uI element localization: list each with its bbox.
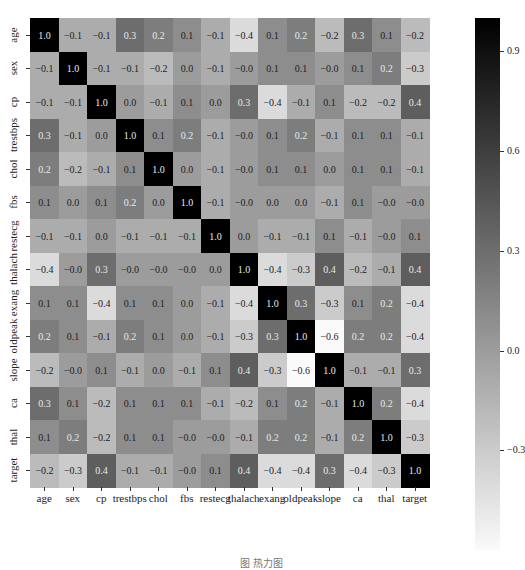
heatmap-cell-thal-thalach: −0.1 bbox=[230, 420, 259, 454]
y-tick bbox=[26, 135, 30, 136]
heatmap-cell-thal-fbs: −0.0 bbox=[173, 420, 202, 454]
y-tick bbox=[26, 68, 30, 69]
y-label-text: sex bbox=[7, 61, 19, 76]
y-label-oldpeak: oldpeak bbox=[0, 320, 26, 354]
x-tick bbox=[158, 487, 159, 491]
heatmap-cell-oldpeak-trestbps: 0.2 bbox=[116, 320, 145, 354]
x-tick bbox=[73, 487, 74, 491]
y-label-restecg: restecg bbox=[0, 219, 26, 253]
heatmap-cell-slope-exang: −0.3 bbox=[258, 353, 287, 387]
heatmap-cell-slope-slope: 1.0 bbox=[315, 353, 344, 387]
heatmap-cell-exang-exang: 1.0 bbox=[258, 286, 287, 320]
heatmap-cell-thalach-exang: −0.4 bbox=[258, 253, 287, 287]
y-label-thal: thal bbox=[0, 420, 26, 454]
y-label-text: ca bbox=[7, 398, 19, 408]
colorbar-tick bbox=[500, 450, 504, 451]
heatmap-cell-sex-chol: −0.2 bbox=[144, 52, 173, 86]
x-tick bbox=[272, 487, 273, 491]
y-tick bbox=[26, 102, 30, 103]
heatmap-cell-thal-slope: −0.1 bbox=[315, 420, 344, 454]
heatmap-cell-sex-thal: 0.2 bbox=[372, 52, 401, 86]
y-tick bbox=[26, 303, 30, 304]
heatmap-cell-trestbps-thalach: −0.0 bbox=[230, 119, 259, 153]
heatmap-cell-chol-fbs: 0.0 bbox=[173, 152, 202, 186]
heatmap-cell-thalach-fbs: −0.0 bbox=[173, 253, 202, 287]
colorbar-tick-label: 0.9 bbox=[507, 45, 520, 56]
heatmap-cell-thalach-oldpeak: −0.3 bbox=[287, 253, 316, 287]
heatmap-cell-thalach-chol: −0.0 bbox=[144, 253, 173, 287]
heatmap-cell-trestbps-restecg: −0.1 bbox=[201, 119, 230, 153]
heatmap-cell-chol-restecg: −0.1 bbox=[201, 152, 230, 186]
heatmap-cell-thal-exang: 0.2 bbox=[258, 420, 287, 454]
heatmap-cell-ca-ca: 1.0 bbox=[344, 387, 373, 421]
heatmap-cell-chol-cp: −0.1 bbox=[87, 152, 116, 186]
heatmap-cell-slope-trestbps: −0.1 bbox=[116, 353, 145, 387]
heatmap-cell-sex-thalach: −0.0 bbox=[230, 52, 259, 86]
heatmap-cell-age-target: −0.2 bbox=[401, 18, 430, 52]
heatmap-cell-trestbps-chol: 0.1 bbox=[144, 119, 173, 153]
heatmap-cell-trestbps-exang: 0.1 bbox=[258, 119, 287, 153]
y-label-slope: slope bbox=[0, 353, 26, 387]
heatmap-cell-thal-chol: 0.1 bbox=[144, 420, 173, 454]
heatmap-cell-thalach-trestbps: −0.0 bbox=[116, 253, 145, 287]
heatmap-cell-cp-trestbps: 0.0 bbox=[116, 85, 145, 119]
heatmap-cell-target-sex: −0.3 bbox=[59, 454, 88, 488]
heatmap-cell-fbs-slope: −0.1 bbox=[315, 186, 344, 220]
heatmap-cell-target-slope: 0.3 bbox=[315, 454, 344, 488]
heatmap-cell-ca-trestbps: 0.1 bbox=[116, 387, 145, 421]
heatmap-cell-sex-trestbps: −0.1 bbox=[116, 52, 145, 86]
x-tick bbox=[130, 487, 131, 491]
y-tick bbox=[26, 236, 30, 237]
y-label-text: age bbox=[7, 27, 19, 42]
heatmap-cell-cp-cp: 1.0 bbox=[87, 85, 116, 119]
heatmap-cell-restecg-thal: −0.0 bbox=[372, 219, 401, 253]
colorbar-tick-label: 0.0 bbox=[507, 345, 520, 356]
heatmap-cell-restecg-trestbps: −0.1 bbox=[116, 219, 145, 253]
heatmap-cell-fbs-trestbps: 0.2 bbox=[116, 186, 145, 220]
heatmap-cell-chol-exang: 0.1 bbox=[258, 152, 287, 186]
heatmap-cell-slope-restecg: 0.1 bbox=[201, 353, 230, 387]
heatmap-cell-thalach-age: −0.4 bbox=[30, 253, 59, 287]
heatmap-cell-slope-chol: 0.0 bbox=[144, 353, 173, 387]
heatmap-cell-target-age: −0.2 bbox=[30, 454, 59, 488]
heatmap-cell-target-thal: −0.3 bbox=[372, 454, 401, 488]
heatmap-cell-trestbps-fbs: 0.2 bbox=[173, 119, 202, 153]
heatmap-cell-restecg-age: −0.1 bbox=[30, 219, 59, 253]
y-tick bbox=[26, 437, 30, 438]
heatmap-cell-sex-cp: −0.1 bbox=[87, 52, 116, 86]
heatmap-cell-sex-oldpeak: 0.1 bbox=[287, 52, 316, 86]
y-tick bbox=[26, 202, 30, 203]
heatmap-cell-ca-cp: −0.2 bbox=[87, 387, 116, 421]
heatmap-cell-thalach-slope: 0.4 bbox=[315, 253, 344, 287]
heatmap-cell-thalach-thal: −0.1 bbox=[372, 253, 401, 287]
heatmap-cell-fbs-restecg: −0.1 bbox=[201, 186, 230, 220]
x-tick bbox=[358, 487, 359, 491]
heatmap-cell-thalach-target: 0.4 bbox=[401, 253, 430, 287]
heatmap-cell-exang-ca: 0.1 bbox=[344, 286, 373, 320]
heatmap-cell-target-trestbps: −0.1 bbox=[116, 454, 145, 488]
heatmap-cell-thal-ca: 0.2 bbox=[344, 420, 373, 454]
heatmap-cell-age-cp: −0.1 bbox=[87, 18, 116, 52]
heatmap-cell-fbs-age: 0.1 bbox=[30, 186, 59, 220]
heatmap-cell-exang-sex: 0.1 bbox=[59, 286, 88, 320]
heatmap-cell-chol-slope: 0.0 bbox=[315, 152, 344, 186]
heatmap-cell-oldpeak-restecg: −0.1 bbox=[201, 320, 230, 354]
y-label-text: cp bbox=[7, 97, 19, 107]
heatmap-cell-exang-thal: 0.2 bbox=[372, 286, 401, 320]
heatmap-cell-chol-ca: 0.1 bbox=[344, 152, 373, 186]
heatmap-cell-fbs-ca: 0.1 bbox=[344, 186, 373, 220]
heatmap-cell-slope-fbs: −0.1 bbox=[173, 353, 202, 387]
heatmap-cell-trestbps-sex: −0.1 bbox=[59, 119, 88, 153]
heatmap-cell-fbs-target: −0.0 bbox=[401, 186, 430, 220]
heatmap-cell-fbs-thalach: −0.0 bbox=[230, 186, 259, 220]
y-label-chol: chol bbox=[0, 152, 26, 186]
heatmap-cell-sex-slope: −0.0 bbox=[315, 52, 344, 86]
heatmap-cell-target-fbs: −0.0 bbox=[173, 454, 202, 488]
figure-caption: 图 热力图 bbox=[0, 555, 523, 570]
heatmap-cell-ca-exang: 0.1 bbox=[258, 387, 287, 421]
heatmap-cell-age-thalach: −0.4 bbox=[230, 18, 259, 52]
heatmap-cell-slope-sex: −0.0 bbox=[59, 353, 88, 387]
heatmap-cell-thalach-sex: −0.0 bbox=[59, 253, 88, 287]
heatmap-cell-slope-oldpeak: −0.6 bbox=[287, 353, 316, 387]
heatmap-cell-cp-ca: −0.2 bbox=[344, 85, 373, 119]
